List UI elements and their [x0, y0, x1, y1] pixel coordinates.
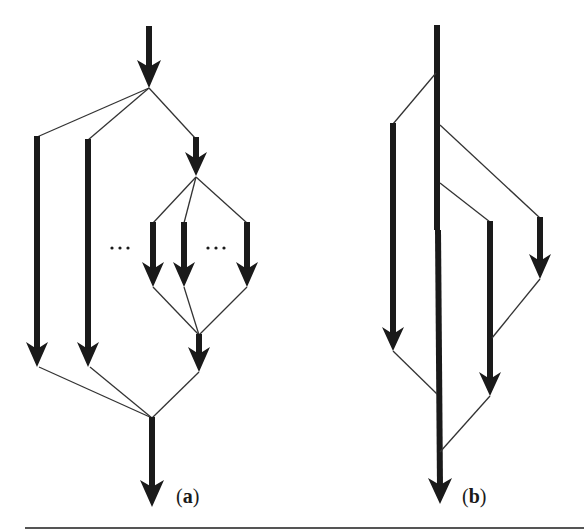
- horizontal-rule: [25, 527, 584, 529]
- thick-arrow-bottom: [140, 417, 164, 507]
- ellipsis-left: [110, 246, 129, 249]
- ellipsis-right: [206, 246, 225, 249]
- join-lines-b: [393, 279, 540, 452]
- inner-arrow-3: [236, 222, 258, 287]
- panel-a-letter: a: [183, 485, 193, 507]
- branch-arrow-1: [26, 136, 48, 367]
- inner-arrow-1: [142, 222, 164, 287]
- diagram-canvas: [0, 0, 584, 531]
- subjoin-lines: [153, 287, 247, 335]
- panel-a: [26, 26, 258, 507]
- spawn-lines: [393, 73, 540, 222]
- branch-arrow-2: [77, 139, 99, 367]
- fork-lines-top: [37, 88, 195, 140]
- subfork-arrow: [185, 137, 207, 176]
- panel-b-label: (b): [462, 485, 486, 508]
- panel-a-label: (a): [176, 485, 199, 508]
- panel-b: [382, 25, 551, 504]
- subfork-lines: [153, 177, 247, 223]
- child-arrow-middle: [479, 221, 501, 396]
- subjoin-arrow: [188, 334, 210, 372]
- panel-b-letter: b: [469, 485, 480, 507]
- join-lines-bottom: [39, 367, 199, 418]
- inner-arrow-2: [173, 222, 195, 287]
- main-thread-arrow: [428, 25, 452, 504]
- child-arrow-left: [382, 123, 404, 351]
- child-arrow-right: [529, 217, 551, 279]
- thick-arrow-top: [137, 26, 161, 88]
